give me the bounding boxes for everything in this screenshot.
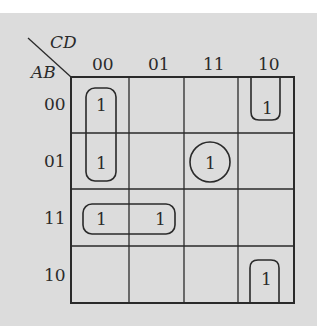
row-header-00: 00 [44,96,66,113]
row-header-10: 10 [44,267,66,284]
cell-r2-c1: 1 [155,211,166,228]
column-header-01: 01 [148,56,170,73]
cell-r0-c0: 1 [96,97,107,114]
column-header-00: 00 [92,56,114,73]
row-header-11: 11 [44,210,66,227]
row-variable-label: AB [31,64,56,81]
cell-r0-c3: 1 [262,100,273,117]
cell-r3-c3: 1 [261,271,272,288]
cell-r2-c0: 1 [96,211,107,228]
row-header-01: 01 [44,153,66,170]
cell-r1-c2: 1 [205,155,216,172]
column-header-11: 11 [203,56,225,73]
cell-r1-c0: 1 [96,155,107,172]
column-variable-label: CD [50,34,77,51]
column-header-10: 10 [258,56,280,73]
